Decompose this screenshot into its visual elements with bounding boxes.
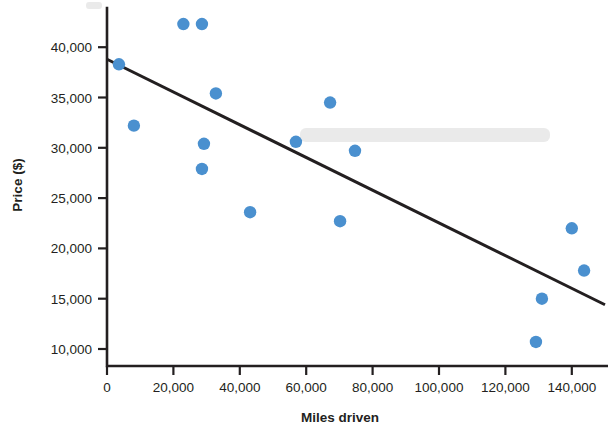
y-axis-title: Price ($) bbox=[10, 158, 25, 211]
plot-canvas: 020,00040,00060,00080,000100,000120,0001… bbox=[0, 0, 608, 433]
y-axis-ticks: 10,00015,00020,00025,00030,00035,00040,0… bbox=[51, 40, 107, 357]
data-point bbox=[324, 96, 336, 108]
data-point bbox=[198, 138, 210, 150]
x-tick-label: 120,000 bbox=[481, 380, 530, 395]
data-points bbox=[113, 18, 591, 348]
data-point bbox=[196, 163, 208, 175]
x-tick-label: 0 bbox=[103, 380, 111, 395]
x-axis-ticks: 020,00040,00060,00080,000100,000120,0001… bbox=[103, 366, 596, 395]
data-point bbox=[177, 18, 189, 30]
data-point bbox=[334, 215, 346, 227]
data-point bbox=[349, 145, 361, 157]
data-point bbox=[244, 206, 256, 218]
scatter-plot-figure: 020,00040,00060,00080,000100,000120,0001… bbox=[0, 0, 608, 433]
x-tick-label: 60,000 bbox=[286, 380, 327, 395]
x-tick-label: 20,000 bbox=[153, 380, 194, 395]
x-tick-label: 100,000 bbox=[415, 380, 464, 395]
y-tick-label: 25,000 bbox=[51, 191, 92, 206]
x-tick-label: 40,000 bbox=[219, 380, 260, 395]
x-axis-title: Miles driven bbox=[301, 410, 379, 425]
axes bbox=[107, 8, 608, 366]
background-artifacts bbox=[86, 2, 550, 142]
line-of-best-fit bbox=[107, 59, 605, 304]
data-point bbox=[290, 136, 302, 148]
data-point bbox=[536, 293, 548, 305]
data-point bbox=[210, 87, 222, 99]
data-point bbox=[566, 222, 578, 234]
y-tick-label: 35,000 bbox=[51, 91, 92, 106]
data-point bbox=[578, 264, 590, 276]
data-point bbox=[530, 336, 542, 348]
y-tick-label: 20,000 bbox=[51, 241, 92, 256]
y-tick-label: 15,000 bbox=[51, 292, 92, 307]
data-point bbox=[113, 58, 125, 70]
x-tick-label: 80,000 bbox=[352, 380, 393, 395]
trend-line bbox=[107, 59, 605, 304]
data-point bbox=[128, 119, 140, 131]
data-point bbox=[196, 18, 208, 30]
y-tick-label: 10,000 bbox=[51, 342, 92, 357]
y-tick-label: 40,000 bbox=[51, 40, 92, 55]
x-tick-label: 140,000 bbox=[547, 380, 596, 395]
y-tick-label: 30,000 bbox=[51, 141, 92, 156]
